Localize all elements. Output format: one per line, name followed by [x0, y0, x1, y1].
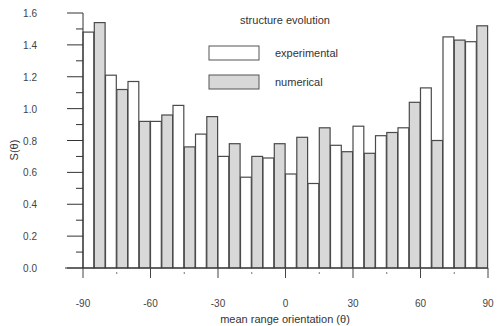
bar-numerical--45	[184, 147, 195, 268]
bar-experimental-75	[443, 37, 454, 268]
bar-numerical-85	[477, 26, 488, 268]
bar-numerical--15	[252, 156, 263, 268]
x-tick-label: 0	[283, 298, 289, 309]
bars-group	[83, 23, 488, 269]
bar-experimental-45	[376, 136, 387, 268]
x-tick-label: 60	[415, 298, 427, 309]
y-axis-title: S(θ)	[8, 140, 20, 161]
x-tick-label: -90	[76, 298, 91, 309]
legend-label-numerical: numerical	[275, 76, 323, 88]
bar-numerical--85	[94, 23, 105, 268]
bar-numerical-45	[387, 133, 398, 269]
bar-experimental--5	[263, 158, 274, 268]
bar-numerical-15	[319, 128, 330, 268]
bar-experimental--15	[241, 177, 252, 268]
bar-numerical-25	[342, 152, 353, 268]
y-tick-label: 1.0	[23, 104, 37, 115]
bar-numerical--65	[139, 121, 150, 268]
bar-experimental--45	[173, 105, 184, 268]
bar-experimental-35	[353, 126, 364, 268]
bar-numerical-35	[364, 153, 375, 268]
bar-numerical-65	[432, 141, 443, 269]
bar-numerical--75	[117, 90, 128, 269]
y-tick-label: 1.2	[23, 72, 37, 83]
bar-experimental-25	[331, 145, 342, 268]
x-tick-label: 30	[347, 298, 359, 309]
bar-experimental--75	[106, 75, 117, 268]
legend-title: structure evolution	[240, 14, 330, 26]
bar-numerical-55	[409, 102, 420, 268]
bar-numerical-75	[454, 40, 465, 268]
legend-swatch-numerical	[209, 75, 259, 89]
y-tick-label: 0.8	[23, 136, 37, 147]
bar-experimental--85	[83, 32, 94, 268]
y-tick-label: 1.6	[23, 8, 37, 19]
bar-experimental-15	[308, 184, 319, 269]
bar-experimental--65	[128, 82, 139, 269]
bar-chart: 0.00.20.40.60.81.01.21.41.6-90-60-300306…	[0, 0, 501, 326]
bar-experimental--25	[218, 156, 229, 268]
bar-numerical--25	[229, 144, 240, 268]
bar-numerical-5	[297, 137, 308, 268]
bar-numerical--55	[162, 115, 173, 268]
bar-experimental-65	[421, 88, 432, 268]
legend-swatch-experimental	[209, 46, 259, 60]
bar-experimental--55	[151, 121, 162, 268]
legend: structure evolution experimental numeric…	[209, 14, 338, 89]
y-tick-label: 0.6	[23, 167, 37, 178]
bar-experimental-5	[286, 174, 297, 268]
legend-label-experimental: experimental	[275, 47, 338, 59]
y-tick-label: 0.2	[23, 231, 37, 242]
y-tick-label: 0.4	[23, 199, 37, 210]
y-tick-label: 0.0	[23, 263, 37, 274]
bar-numerical--35	[207, 117, 218, 268]
x-tick-label: -30	[211, 298, 226, 309]
x-tick-label: -60	[143, 298, 158, 309]
x-axis-title: mean range orientation (θ)	[220, 313, 350, 325]
x-tick-label: 90	[482, 298, 494, 309]
bar-experimental-55	[398, 128, 409, 268]
bar-experimental-85	[466, 42, 477, 268]
bar-experimental--35	[196, 134, 207, 268]
bar-numerical--5	[274, 144, 285, 268]
y-tick-label: 1.4	[23, 40, 37, 51]
